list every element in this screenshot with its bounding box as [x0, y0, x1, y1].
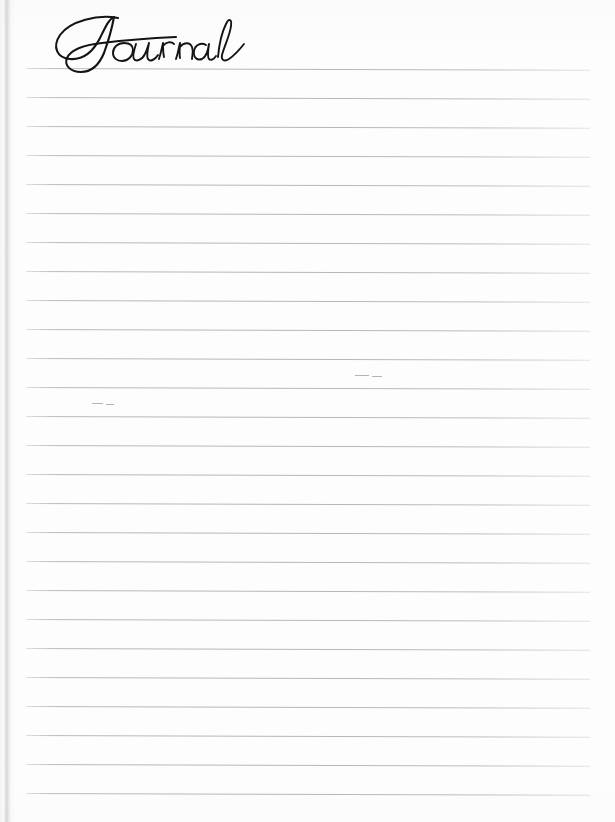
ruled-lines-group [0, 0, 615, 822]
ruled-line [26, 764, 590, 767]
ruled-line [26, 445, 590, 448]
ruled-line [26, 590, 590, 593]
journal-script-lettering [26, 12, 326, 78]
ruled-line [26, 416, 590, 419]
ruled-line [26, 242, 590, 245]
ruled-line [26, 532, 590, 535]
ruled-line [26, 706, 590, 709]
page-title: Journal [26, 12, 346, 78]
ruled-line [26, 474, 590, 477]
ruled-line [26, 97, 590, 100]
ruled-line [26, 619, 590, 622]
ruled-line [26, 300, 590, 303]
ruled-line [26, 329, 590, 332]
ruled-line [26, 735, 590, 738]
journal-page: Journal [0, 0, 615, 822]
ruled-line [26, 561, 590, 564]
ruled-line [26, 503, 590, 506]
ruled-line [26, 155, 590, 158]
ruled-line [26, 793, 590, 796]
ruled-line [26, 648, 590, 651]
ruled-line [26, 387, 590, 390]
ruled-line [26, 213, 590, 216]
ruled-line [26, 358, 590, 361]
ruled-line [26, 126, 590, 129]
ruled-line [26, 184, 590, 187]
ruled-line [26, 677, 590, 680]
ruled-line [26, 271, 590, 274]
